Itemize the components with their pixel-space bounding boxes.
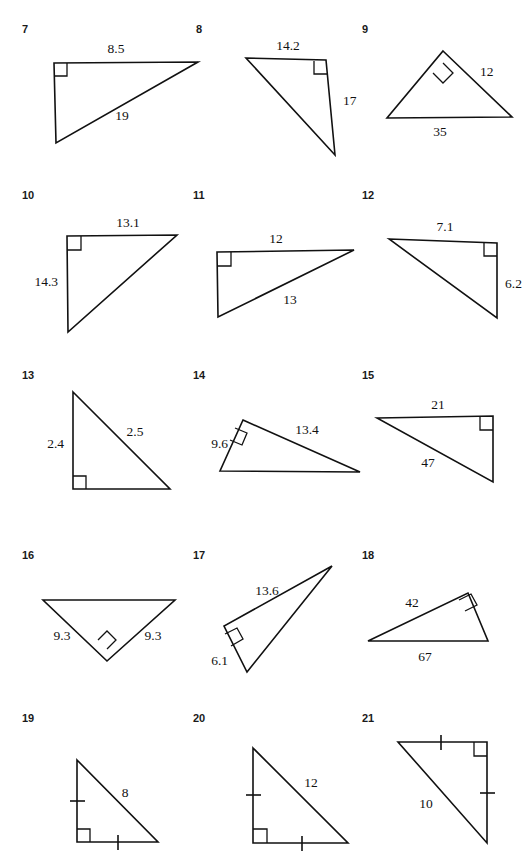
problem-number: 8 bbox=[196, 23, 202, 35]
problem-number: 20 bbox=[193, 712, 205, 724]
right-angle-marker bbox=[225, 628, 243, 646]
triangle-shape bbox=[220, 420, 360, 472]
side-length-label: 10 bbox=[419, 796, 433, 811]
right-angle-marker bbox=[98, 631, 116, 649]
side-length-label: 13.4 bbox=[295, 422, 319, 437]
side-length-label: 6.2 bbox=[505, 276, 522, 291]
problem-number: 16 bbox=[22, 549, 34, 561]
side-length-label: 12 bbox=[269, 231, 283, 246]
problem-11: 111213 bbox=[193, 189, 354, 317]
side-length-label: 12 bbox=[304, 775, 318, 790]
problem-number: 13 bbox=[22, 369, 34, 381]
right-angle-marker bbox=[484, 242, 497, 256]
side-length-label: 42 bbox=[405, 595, 419, 610]
right-angle-marker bbox=[474, 742, 487, 756]
side-length-label: 6.1 bbox=[211, 653, 228, 668]
side-length-label: 14.3 bbox=[34, 274, 58, 289]
side-length-label: 8 bbox=[122, 785, 129, 800]
right-angle-marker bbox=[77, 829, 90, 842]
problem-15: 152147 bbox=[362, 369, 493, 482]
side-length-label: 17 bbox=[343, 93, 357, 108]
problem-number: 11 bbox=[193, 189, 205, 201]
triangle-shape bbox=[368, 593, 488, 641]
triangle-shape bbox=[389, 239, 497, 318]
side-length-label: 35 bbox=[433, 124, 447, 139]
problem-12: 127.16.2 bbox=[362, 189, 522, 318]
problem-17: 1713.66.1 bbox=[193, 549, 332, 672]
problem-21: 2110 bbox=[362, 712, 495, 843]
triangle-shape bbox=[224, 566, 332, 672]
triangle-shape bbox=[54, 62, 198, 143]
side-length-label: 2.5 bbox=[127, 424, 144, 439]
worksheet-canvas: 78.519814.217912351013.114.3111213127.16… bbox=[0, 0, 531, 854]
side-length-label: 13.1 bbox=[116, 215, 140, 230]
problem-7: 78.519 bbox=[22, 23, 198, 143]
problem-number: 18 bbox=[362, 549, 374, 561]
triangle-shape bbox=[67, 235, 177, 332]
triangle-shape bbox=[77, 760, 158, 842]
problem-number: 19 bbox=[22, 712, 34, 724]
right-angle-marker bbox=[480, 416, 493, 430]
problem-number: 10 bbox=[22, 189, 34, 201]
right-angle-marker bbox=[314, 61, 327, 74]
problem-16: 169.39.3 bbox=[22, 549, 175, 661]
problem-number: 14 bbox=[193, 369, 206, 381]
triangle-shape bbox=[73, 392, 170, 489]
right-angle-marker bbox=[73, 476, 86, 489]
right-angle-marker bbox=[54, 63, 67, 76]
right-angle-marker bbox=[67, 236, 81, 250]
side-length-label: 14.2 bbox=[276, 38, 300, 53]
side-length-label: 9.3 bbox=[145, 628, 162, 643]
problem-10: 1013.114.3 bbox=[22, 189, 177, 332]
problem-18: 184267 bbox=[362, 549, 488, 664]
triangle-shape bbox=[377, 416, 493, 482]
side-length-label: 47 bbox=[421, 455, 435, 470]
side-length-label: 7.1 bbox=[437, 219, 454, 234]
problem-14: 1413.49.6 bbox=[193, 369, 360, 472]
triangle-shape bbox=[387, 51, 512, 118]
side-length-label: 9.3 bbox=[54, 628, 71, 643]
side-length-label: 19 bbox=[115, 108, 129, 123]
side-length-label: 13 bbox=[283, 292, 297, 307]
side-length-label: 67 bbox=[418, 649, 432, 664]
problem-number: 17 bbox=[193, 549, 205, 561]
side-length-label: 12 bbox=[480, 64, 494, 79]
side-length-label: 9.6 bbox=[211, 436, 228, 451]
right-angle-marker bbox=[433, 63, 453, 83]
side-length-label: 8.5 bbox=[108, 41, 125, 56]
triangle-shape bbox=[246, 58, 335, 155]
right-angle-marker bbox=[217, 252, 231, 266]
problem-9: 91235 bbox=[362, 23, 512, 139]
problem-number: 21 bbox=[362, 712, 374, 724]
triangle-shape bbox=[398, 742, 487, 843]
problem-number: 15 bbox=[362, 369, 374, 381]
side-length-label: 2.4 bbox=[47, 436, 64, 451]
right-angle-marker bbox=[253, 829, 267, 843]
problem-8: 814.217 bbox=[196, 23, 357, 155]
side-length-label: 21 bbox=[431, 397, 445, 412]
problem-number: 12 bbox=[362, 189, 374, 201]
problem-13: 132.52.4 bbox=[22, 369, 170, 489]
problem-19: 198 bbox=[22, 712, 158, 850]
problem-number: 9 bbox=[362, 23, 368, 35]
side-length-label: 13.6 bbox=[255, 583, 279, 598]
problem-20: 2012 bbox=[193, 712, 348, 851]
problem-number: 7 bbox=[22, 23, 28, 35]
